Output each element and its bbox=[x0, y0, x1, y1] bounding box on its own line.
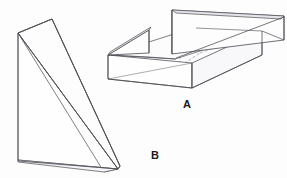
part-b-wedge bbox=[18, 19, 120, 172]
part-label-a: A bbox=[183, 99, 191, 110]
part-label-b: B bbox=[151, 150, 159, 161]
drawing-canvas: A B bbox=[0, 0, 287, 178]
part-a-box bbox=[108, 10, 284, 88]
box-front-face bbox=[108, 55, 192, 88]
technical-drawing-svg bbox=[0, 0, 287, 178]
